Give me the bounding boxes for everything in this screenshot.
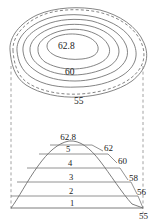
- contour-58: [23, 19, 128, 81]
- band-label-2: 2: [69, 186, 73, 196]
- profile-label-62: 62: [104, 143, 113, 153]
- profile-label-56: 56: [137, 187, 147, 197]
- contour-56: [17, 15, 136, 88]
- band-label-3: 3: [69, 172, 73, 182]
- contour-label-55: 55: [74, 96, 84, 106]
- contour-label-summit: 62.8: [58, 41, 75, 51]
- profile-label-60: 60: [118, 156, 128, 166]
- figure-container: 62.8 60 55 1: [0, 0, 158, 223]
- cross-section-panel: 1 2 3 4 5 62.8 62 60 58 56 55: [11, 132, 149, 221]
- leader-line-60: [108, 154, 117, 163]
- contour-profile-figure: 62.8 60 55 1: [0, 0, 158, 223]
- leader-line-62: [92, 145, 103, 151]
- contour-map-panel: 62.8 60 55: [10, 8, 147, 106]
- profile-label-peak: 62.8: [60, 132, 76, 142]
- band-label-1: 1: [70, 198, 74, 208]
- profile-mound-curve: [11, 141, 143, 208]
- contour-label-60: 60: [65, 67, 75, 77]
- leader-line-58: [120, 168, 128, 180]
- band-label-5: 5: [66, 144, 70, 154]
- profile-label-58: 58: [129, 173, 139, 183]
- contour-55-dashed: [13, 10, 144, 94]
- band-label-4: 4: [68, 158, 73, 168]
- profile-label-55: 55: [139, 211, 149, 221]
